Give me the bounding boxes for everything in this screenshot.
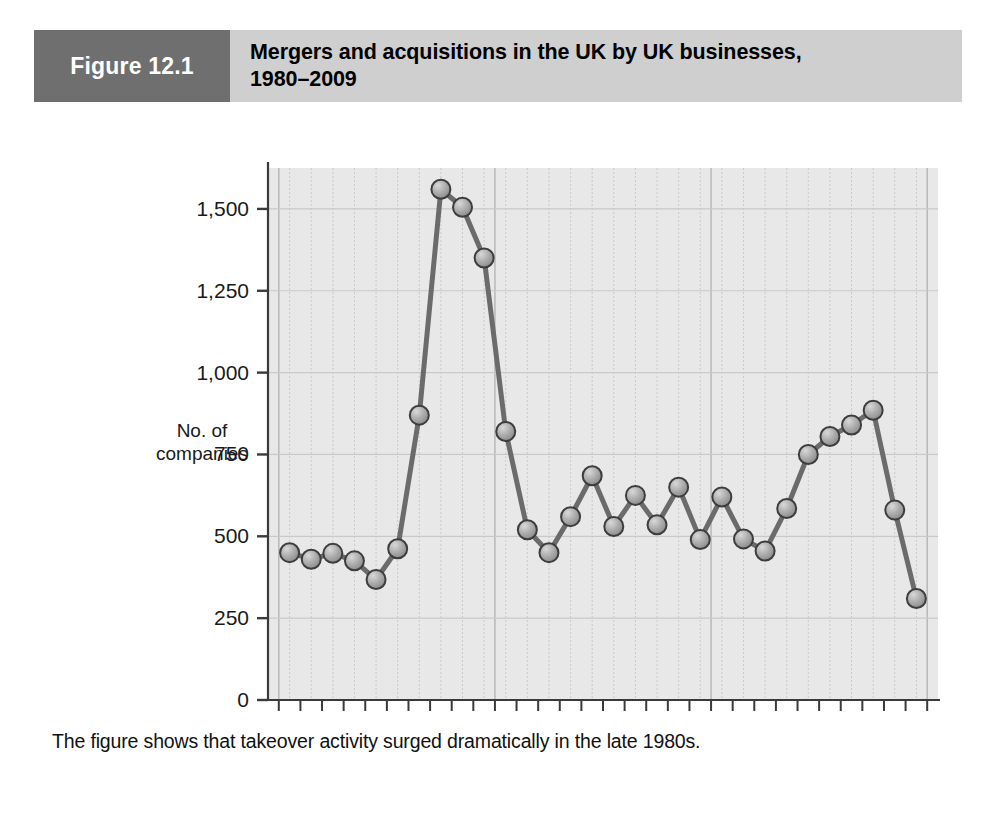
figure-header: Figure 12.1 Mergers and acquisitions in … — [34, 30, 962, 102]
data-point-marker — [345, 551, 364, 570]
data-point-marker — [691, 530, 710, 549]
figure-container: Figure 12.1 Mergers and acquisitions in … — [34, 30, 962, 790]
data-point-marker — [475, 249, 494, 268]
data-point-marker — [518, 520, 537, 539]
data-point-marker — [431, 180, 450, 199]
data-point-marker — [885, 501, 904, 520]
y-tick-label: 1,000 — [196, 361, 249, 384]
data-point-marker — [842, 415, 861, 434]
data-point-marker — [756, 542, 775, 561]
data-point-marker — [648, 515, 667, 534]
y-axis-ticks — [257, 209, 268, 700]
figure-title-block: Mergers and acquisitions in the UK by UK… — [230, 30, 962, 102]
chart-area: 02505007501,0001,2501,500 1980–19891990–… — [34, 102, 962, 722]
y-tick-label: 500 — [214, 524, 249, 547]
y-tick-label: 0 — [237, 688, 249, 711]
x-group-label: 1990–1999 — [553, 718, 653, 722]
data-point-marker — [864, 401, 883, 420]
data-point-marker — [777, 499, 796, 518]
x-axis-ticks — [279, 700, 927, 711]
y-tick-label: 1,500 — [196, 197, 249, 220]
y-tick-label: 250 — [214, 606, 249, 629]
data-point-marker — [583, 466, 602, 485]
data-point-marker — [626, 486, 645, 505]
data-point-marker — [539, 543, 558, 562]
x-group-label: 1980–1989 — [337, 718, 437, 722]
data-point-marker — [388, 539, 407, 558]
data-point-marker — [799, 445, 818, 464]
y-axis-title-line-1: No. of — [177, 420, 228, 441]
data-point-marker — [734, 529, 753, 548]
data-point-marker — [367, 570, 386, 589]
figure-title-line-1: Mergers and acquisitions in the UK by UK… — [250, 39, 962, 66]
figure-caption: The figure shows that takeover activity … — [34, 730, 962, 753]
data-point-marker — [410, 406, 429, 425]
x-axis-group-labels: 1980–19891990–19992000–2009 — [337, 718, 869, 722]
data-point-marker — [302, 550, 321, 569]
data-point-marker — [280, 543, 299, 562]
y-axis-title-line-2: companies — [156, 443, 248, 464]
data-point-marker — [496, 422, 515, 441]
data-point-marker — [907, 589, 926, 608]
figure-number-label: Figure 12.1 — [70, 53, 194, 80]
data-point-marker — [453, 198, 472, 217]
line-chart: 02505007501,0001,2501,500 1980–19891990–… — [34, 102, 962, 722]
figure-number-badge: Figure 12.1 — [34, 30, 230, 102]
data-point-marker — [712, 488, 731, 507]
figure-title-line-2: 1980–2009 — [250, 66, 962, 93]
data-point-marker — [604, 517, 623, 536]
data-point-marker — [820, 427, 839, 446]
data-point-marker — [323, 544, 342, 563]
data-point-marker — [561, 507, 580, 526]
data-point-marker — [669, 478, 688, 497]
x-group-label: 2000–2009 — [769, 718, 869, 722]
y-tick-label: 1,250 — [196, 279, 249, 302]
